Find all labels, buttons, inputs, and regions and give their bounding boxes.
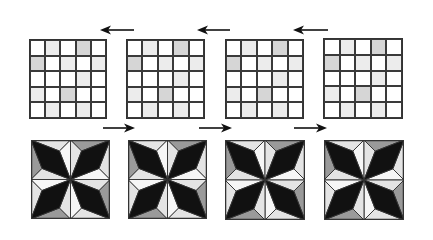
right-arrow-icon xyxy=(292,122,329,134)
grid-cell xyxy=(142,102,157,118)
grid-cell xyxy=(127,87,142,103)
grid-cell xyxy=(45,102,60,118)
grid-cell xyxy=(189,40,204,56)
grid-cell xyxy=(127,71,142,87)
grid-cell xyxy=(30,40,45,56)
grid-cell xyxy=(355,39,371,55)
grid-cell xyxy=(257,71,272,87)
grid-cell xyxy=(76,71,91,87)
grid-cell xyxy=(355,102,371,118)
grid-cell xyxy=(173,56,188,72)
grid-cell xyxy=(142,87,157,103)
grid-cell xyxy=(386,39,402,55)
star-tile-4 xyxy=(324,140,404,220)
grid-cell xyxy=(60,56,75,72)
grid-cell xyxy=(45,71,60,87)
grid-cell xyxy=(241,102,256,118)
star-tile-2 xyxy=(128,140,207,219)
grid-cell xyxy=(371,71,387,87)
grid-cell xyxy=(324,71,340,87)
grid-cell xyxy=(324,39,340,55)
grid-cell xyxy=(158,87,173,103)
grid-cell xyxy=(324,86,340,102)
grid-cell xyxy=(76,40,91,56)
grid-cell xyxy=(91,102,106,118)
grid-cell xyxy=(189,71,204,87)
grid-cell xyxy=(272,102,287,118)
grid-cell xyxy=(257,56,272,72)
grid-cell xyxy=(30,71,45,87)
grid-cell xyxy=(340,55,356,71)
shaded-grid-2 xyxy=(126,39,205,119)
shaded-grid-4 xyxy=(323,38,403,119)
grid-cell xyxy=(355,55,371,71)
grid-cell xyxy=(189,102,204,118)
grid-cell xyxy=(340,102,356,118)
grid-cell xyxy=(371,39,387,55)
grid-cell xyxy=(241,56,256,72)
grid-cell xyxy=(386,102,402,118)
grid-cell xyxy=(355,86,371,102)
grid-cell xyxy=(158,56,173,72)
left-arrow-icon xyxy=(195,24,232,36)
grid-cell xyxy=(60,102,75,118)
grid-cell xyxy=(127,56,142,72)
grid-cell xyxy=(324,55,340,71)
grid-cell xyxy=(158,102,173,118)
grid-cell xyxy=(158,40,173,56)
grid-cell xyxy=(288,102,303,118)
grid-cell xyxy=(173,87,188,103)
grid-cell xyxy=(91,71,106,87)
grid-cell xyxy=(30,87,45,103)
grid-cell xyxy=(272,56,287,72)
grid-cell xyxy=(30,56,45,72)
grid-cell xyxy=(226,56,241,72)
grid-cell xyxy=(91,56,106,72)
grid-cell xyxy=(60,40,75,56)
grid-cell xyxy=(158,71,173,87)
grid-cell xyxy=(272,40,287,56)
grid-cell xyxy=(371,102,387,118)
grid-cell xyxy=(272,87,287,103)
grid-cell xyxy=(241,71,256,87)
grid-cell xyxy=(288,71,303,87)
grid-cell xyxy=(189,87,204,103)
star-tile-1 xyxy=(31,140,110,219)
grid-cell xyxy=(30,102,45,118)
grid-cell xyxy=(91,40,106,56)
grid-cell xyxy=(386,71,402,87)
grid-cell xyxy=(371,55,387,71)
grid-cell xyxy=(142,71,157,87)
grid-cell xyxy=(226,71,241,87)
grid-cell xyxy=(257,40,272,56)
grid-cell xyxy=(241,87,256,103)
grid-cell xyxy=(340,86,356,102)
grid-cell xyxy=(173,102,188,118)
grid-cell xyxy=(189,56,204,72)
shaded-grid-3 xyxy=(225,39,304,119)
grid-cell xyxy=(241,40,256,56)
grid-cell xyxy=(45,56,60,72)
grid-cell xyxy=(127,40,142,56)
grid-cell xyxy=(142,40,157,56)
grid-cell xyxy=(127,102,142,118)
grid-cell xyxy=(371,86,387,102)
grid-cell xyxy=(340,71,356,87)
grid-cell xyxy=(45,40,60,56)
grid-cell xyxy=(76,56,91,72)
grid-cell xyxy=(45,87,60,103)
shaded-grid-1 xyxy=(29,39,107,119)
star-tile-3 xyxy=(225,140,305,220)
grid-cell xyxy=(257,102,272,118)
grid-cell xyxy=(288,87,303,103)
grid-cell xyxy=(76,102,91,118)
grid-cell xyxy=(91,87,106,103)
grid-cell xyxy=(226,40,241,56)
grid-cell xyxy=(340,39,356,55)
grid-cell xyxy=(226,87,241,103)
grid-cell xyxy=(272,71,287,87)
grid-cell xyxy=(226,102,241,118)
left-arrow-icon xyxy=(291,24,330,36)
grid-cell xyxy=(288,40,303,56)
grid-cell xyxy=(60,87,75,103)
